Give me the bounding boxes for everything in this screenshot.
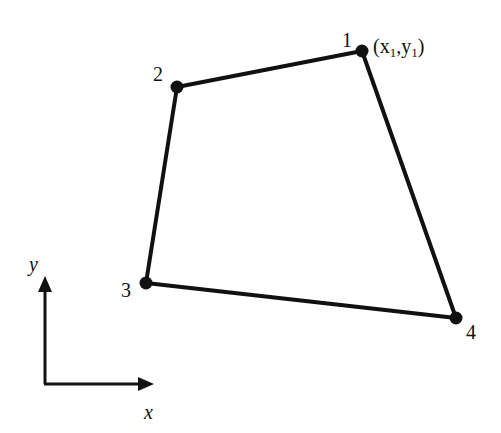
element-outline [146, 51, 456, 318]
node-3-label: 3 [121, 280, 131, 300]
quadrilateral-diagram [0, 0, 501, 433]
node-2-label: 2 [153, 64, 163, 84]
coord-mid: ,y [396, 35, 411, 57]
node-1-dot [356, 45, 369, 58]
x-axis-label: x [144, 402, 153, 422]
x-axis-arrowhead-icon [138, 377, 154, 391]
node-3-dot [140, 277, 153, 290]
node-1-label: 1 [342, 30, 352, 50]
node-2-dot [171, 81, 184, 94]
coord-close: ) [418, 35, 425, 57]
coord-open: (x [373, 35, 390, 57]
y-axis-arrowhead-icon [38, 276, 52, 292]
node-4-dot [450, 312, 463, 325]
y-axis-label: y [29, 254, 38, 274]
node-1-coordinates: (x1,y1) [373, 36, 424, 59]
node-4-label: 4 [466, 322, 476, 342]
